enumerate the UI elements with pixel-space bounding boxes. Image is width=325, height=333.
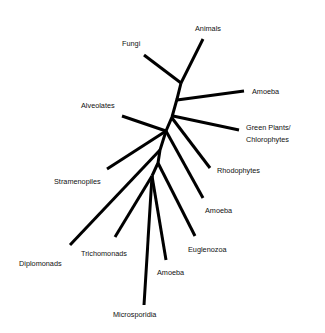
label-green-plants-line2: Chlorophytes [246,135,289,144]
label-microsporidia: Microsporidia [113,310,157,319]
branch-animals [181,39,203,83]
branch-amoeba-1 [177,91,244,100]
label-stramenopiles: Stramenopiles [54,177,101,186]
branch-fungi [144,55,181,83]
branch-green-plants [173,116,239,130]
label-rhodophytes: Rhodophytes [217,166,260,175]
label-animals: Animals [195,24,221,33]
label-green-plants-line1: Green Plants/ [246,123,292,132]
label-euglenozoa: Euglenozoa [188,245,227,254]
branch-alveolates [122,116,166,131]
branch-microsporidia [144,176,152,305]
label-amoeba-3: Amoeba [157,268,185,277]
label-fungi: Fungi [122,39,141,48]
label-alveolates: Alveolates [81,101,115,110]
phylogenetic-tree: Animals Fungi Amoeba Alveolates Green Pl… [0,0,325,333]
branch-rhodophytes [172,118,210,168]
label-diplomonads: Diplomonads [19,259,62,268]
label-amoeba-1: Amoeba [252,87,280,96]
label-amoeba-2: Amoeba [205,206,233,215]
label-trichomonads: Trichomonads [81,249,127,258]
branch-amoeba-3 [152,176,166,260]
tree-trunk [152,83,181,176]
branch-trichomonads [115,176,152,237]
